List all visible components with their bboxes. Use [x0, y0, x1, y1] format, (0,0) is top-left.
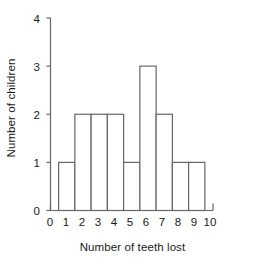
bar-1	[59, 162, 75, 210]
bar-series	[59, 66, 205, 210]
bar-9	[189, 162, 205, 210]
plot-area	[0, 0, 263, 268]
bar-2	[75, 114, 91, 210]
histogram-figure: Number of children Number of teeth lost …	[0, 0, 263, 268]
bar-6	[140, 66, 156, 210]
bar-5	[124, 162, 140, 210]
bar-8	[172, 162, 188, 210]
bar-4	[107, 114, 123, 210]
bar-3	[91, 114, 107, 210]
bar-7	[156, 114, 172, 210]
